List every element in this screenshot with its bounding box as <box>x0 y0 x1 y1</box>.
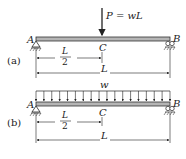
distributed-load-arrows <box>36 91 170 101</box>
half-span-denominator: 2 <box>62 121 68 131</box>
support-label-b: B <box>172 33 180 44</box>
point-load-label: P = wL <box>105 10 143 21</box>
span-label: L <box>100 63 108 74</box>
figure-tag-b: (b) <box>7 117 21 128</box>
figure-b: w A B C (b) L 2 L <box>7 79 180 143</box>
figure-a: P = wL A B C (a) L 2 L <box>7 8 180 78</box>
midpoint-label-c: C <box>99 42 107 53</box>
half-span-numerator: L <box>61 110 68 120</box>
figure-tag-a: (a) <box>7 55 21 66</box>
half-span-numerator: L <box>61 46 68 56</box>
midpoint-label-c: C <box>99 107 107 118</box>
beam-b <box>36 102 170 106</box>
half-span-denominator: 2 <box>62 57 68 67</box>
support-label-a: A <box>26 99 34 110</box>
support-label-a: A <box>26 34 34 45</box>
span-label: L <box>100 130 108 141</box>
distributed-load-label: w <box>100 79 109 90</box>
beam-diagram: P = wL A B C (a) L 2 L <box>0 0 186 159</box>
beam-a <box>36 37 170 41</box>
support-label-b: B <box>172 98 180 109</box>
